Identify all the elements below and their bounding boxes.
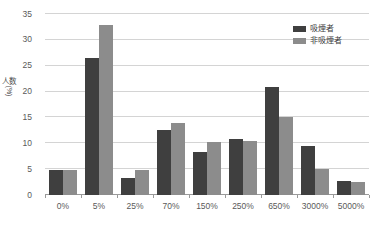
legend-item-nonsmoker: 非吸煙者 [293, 35, 342, 46]
bar [279, 117, 293, 195]
x-axis-tick-label: 5000% [326, 202, 376, 211]
bar [85, 58, 99, 195]
legend-swatch-nonsmoker [293, 38, 306, 44]
x-axis-tick [81, 195, 82, 198]
y-axis-tick-label: 25 [12, 61, 32, 70]
legend-item-smoker: 吸煙者 [293, 23, 342, 34]
bar-chart: 人数 (%) 05101520253035 0%5%25%70%150%250%… [0, 0, 378, 226]
legend-label-smoker: 吸煙者 [310, 23, 334, 34]
bar [207, 142, 221, 195]
bar [135, 170, 149, 195]
x-axis-tick [369, 195, 370, 198]
y-axis-tick-label: 30 [12, 35, 32, 44]
bar [121, 178, 135, 195]
bar [63, 170, 77, 195]
x-axis-tick [261, 195, 262, 198]
bar [301, 146, 315, 195]
y-axis-tick-label: 10 [12, 139, 32, 148]
x-axis-tick [225, 195, 226, 198]
x-axis-tick [117, 195, 118, 198]
y-axis-tick-label: 5 [12, 165, 32, 174]
bar [229, 139, 243, 195]
legend: 吸煙者 非吸煙者 [293, 23, 342, 47]
x-axis-tick [45, 195, 46, 198]
y-axis-tick-label: 35 [12, 10, 32, 19]
y-axis-tick-label: 0 [12, 191, 32, 200]
bar [315, 169, 329, 195]
y-axis-tick-label: 15 [12, 113, 32, 122]
bar [193, 152, 207, 195]
legend-label-nonsmoker: 非吸煙者 [310, 35, 342, 46]
x-axis-tick [297, 195, 298, 198]
bar [337, 181, 351, 195]
bar [351, 182, 365, 195]
x-axis-tick [153, 195, 154, 198]
bar [49, 170, 63, 195]
bar [171, 123, 185, 195]
legend-swatch-smoker [293, 26, 306, 32]
bar [99, 25, 113, 195]
x-axis-tick [189, 195, 190, 198]
bar [265, 87, 279, 195]
bar [157, 130, 171, 195]
bar [243, 141, 257, 195]
y-axis-tick-label: 20 [12, 87, 32, 96]
x-axis-tick [333, 195, 334, 198]
